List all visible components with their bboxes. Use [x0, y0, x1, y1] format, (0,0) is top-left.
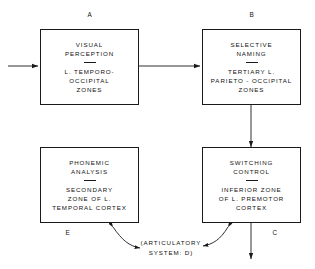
node-c-title: SWITCHING CONTROL	[230, 158, 274, 176]
node-e-title: PHONEMIC ANALYSIS	[69, 158, 110, 176]
node-c-detail: INFERIOR ZONE OF L. PREMOTOR CORTEX	[219, 185, 284, 212]
node-a-detail: L. TEMPORO- OCCIPITAL ZONES	[64, 67, 114, 94]
node-label-e: E	[58, 229, 78, 236]
node-b-divider	[246, 62, 258, 63]
node-a-divider	[84, 62, 96, 63]
node-e-divider	[84, 180, 96, 181]
articulatory-system-label: (ARTICULATORY SYSTEM: D)	[125, 238, 217, 257]
node-a-title: VISUAL PERCEPTION	[65, 40, 114, 58]
node-label-c: C	[265, 229, 285, 236]
node-b-detail: TERTIARY L. PARIETO - OCCIPITAL ZONES	[211, 67, 292, 94]
node-box-e[interactable]: PHONEMIC ANALYSIS SECONDARY ZONE OF L. T…	[40, 147, 139, 223]
node-b-title: SELECTIVE NAMING	[230, 40, 272, 58]
block-diagram: VISUAL PERCEPTION L. TEMPORO- OCCIPITAL …	[0, 0, 315, 269]
node-box-a[interactable]: VISUAL PERCEPTION L. TEMPORO- OCCIPITAL …	[40, 29, 139, 105]
node-c-divider	[246, 180, 258, 181]
node-label-a: A	[80, 11, 100, 18]
node-label-b: B	[242, 11, 262, 18]
node-e-detail: SECONDARY ZONE OF L. TEMPORAL CORTEX	[52, 185, 127, 212]
node-box-c[interactable]: SWITCHING CONTROL INFERIOR ZONE OF L. PR…	[202, 147, 301, 223]
node-box-b[interactable]: SELECTIVE NAMING TERTIARY L. PARIETO - O…	[202, 29, 301, 105]
